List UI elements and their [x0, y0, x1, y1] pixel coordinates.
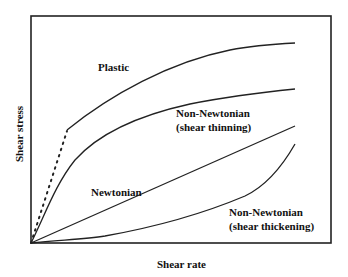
label-plastic: Plastic: [98, 61, 129, 73]
label-shear-thinning-2: (shear thinning): [176, 121, 252, 134]
label-newtonian: Newtonian: [91, 186, 142, 198]
rheology-diagram: Plastic Non-Newtonian (shear thinning) N…: [0, 0, 348, 277]
y-axis-label: Shear stress: [13, 105, 25, 162]
label-shear-thickening-1: Non-Newtonian: [229, 206, 303, 218]
x-axis-label: Shear rate: [157, 258, 206, 270]
plastic-yield-dotted-line: [31, 131, 67, 243]
label-shear-thickening-2: (shear thickening): [229, 220, 314, 233]
label-shear-thinning-1: Non-Newtonian: [176, 107, 250, 119]
